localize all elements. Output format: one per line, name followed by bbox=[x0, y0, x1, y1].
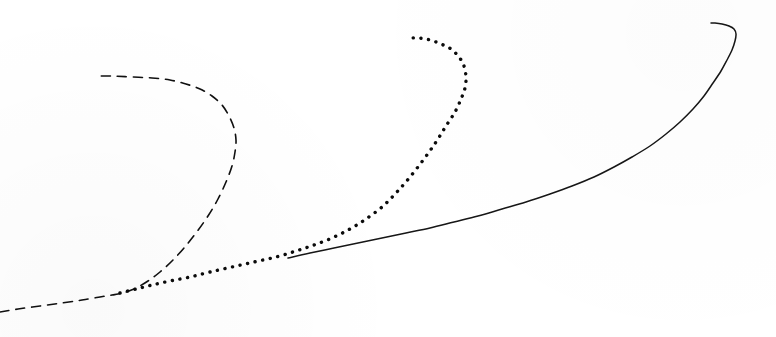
curve-plot bbox=[0, 0, 776, 337]
figure-canvas bbox=[0, 0, 776, 337]
plot-background bbox=[0, 0, 776, 337]
